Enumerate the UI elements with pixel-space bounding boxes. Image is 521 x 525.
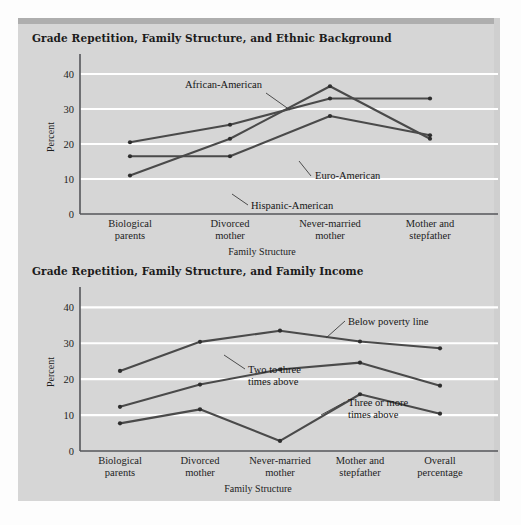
series-annotation-label: times above [248, 376, 299, 387]
y-tick-label: 10 [64, 410, 75, 421]
data-point [438, 384, 442, 388]
chart-plot-ethnic-background: 010203040PercentBiologicalparentsDivorce… [18, 48, 500, 258]
figure-page: Grade Repetition, Family Structure, and … [0, 0, 521, 525]
x-category-label: percentage [417, 467, 463, 478]
x-category-label: stepfather [339, 467, 381, 478]
data-point [428, 133, 432, 137]
data-point [198, 407, 202, 411]
series-annotation-label: Below poverty line [348, 316, 429, 327]
x-category-label: mother [215, 230, 245, 241]
data-point [128, 154, 132, 158]
x-category-label: Biological [98, 455, 142, 466]
x-category-label: Never-married [249, 455, 311, 466]
annotation-leader-line [232, 194, 248, 205]
y-axis-label: Percent [45, 122, 56, 152]
annotation-leader-line [326, 321, 345, 338]
x-category-label: Never-married [299, 218, 361, 229]
data-point [228, 154, 232, 158]
chart-plot-family-income: 010203040PercentBiologicalparentsDivorce… [18, 281, 500, 496]
series-annotation-label: Euro-American [315, 170, 381, 181]
data-point [278, 439, 282, 443]
x-category-label: mother [265, 467, 295, 478]
data-point [118, 405, 122, 409]
data-point [438, 346, 442, 350]
y-tick-label: 0 [69, 446, 74, 457]
data-point [128, 173, 132, 177]
x-category-label: Divorced [210, 218, 250, 229]
x-category-label: parents [115, 230, 145, 241]
series-annotation-label: Hispanic-American [251, 200, 334, 211]
data-point [198, 340, 202, 344]
y-tick-label: 20 [64, 374, 75, 385]
data-point [228, 123, 232, 127]
x-category-label: Overall [424, 455, 456, 466]
chart-title-family-income: Grade Repetition, Family Structure, and … [32, 265, 364, 277]
y-tick-label: 20 [64, 139, 75, 150]
data-point [118, 421, 122, 425]
x-axis-label: Family Structure [224, 483, 292, 494]
data-point [198, 382, 202, 386]
series-annotation-label: Three or more [348, 397, 408, 408]
data-point [328, 84, 332, 88]
x-category-label: parents [105, 467, 135, 478]
data-point [358, 392, 362, 396]
y-tick-label: 30 [64, 338, 75, 349]
data-point [128, 140, 132, 144]
annotation-leader-line [299, 161, 311, 176]
x-category-label: Mother and [406, 218, 455, 229]
data-point [428, 96, 432, 100]
data-point [328, 96, 332, 100]
annotation-leader-line [224, 355, 245, 369]
y-tick-label: 40 [64, 69, 75, 80]
data-point [438, 412, 442, 416]
data-point [278, 329, 282, 333]
annotation-leader-line [321, 402, 345, 415]
y-axis-label: Percent [45, 357, 56, 387]
series-annotation-label: Two to three [248, 364, 301, 375]
chart-title-ethnic-background: Grade Repetition, Family Structure, and … [32, 32, 392, 44]
data-point [328, 114, 332, 118]
data-point [358, 361, 362, 365]
x-category-label: mother [185, 467, 215, 478]
y-tick-label: 0 [69, 209, 74, 220]
y-tick-label: 40 [64, 302, 75, 313]
x-category-label: Mother and [336, 455, 385, 466]
series-annotation-label: times above [348, 409, 399, 420]
series-line [130, 86, 430, 175]
annotation-leader-line [266, 93, 290, 110]
x-category-label: mother [315, 230, 345, 241]
x-axis-label: Family Structure [228, 246, 296, 257]
data-point [358, 339, 362, 343]
data-point [118, 369, 122, 373]
y-tick-label: 10 [64, 174, 75, 185]
y-tick-label: 30 [64, 104, 75, 115]
chart-panel-family-income: Grade Repetition, Family Structure, and … [18, 258, 500, 498]
x-category-label: Biological [108, 218, 152, 229]
series-line [130, 116, 430, 156]
chart-panel-ethnic-background: Grade Repetition, Family Structure, and … [18, 24, 500, 259]
data-point [228, 137, 232, 141]
x-category-label: stepfather [409, 230, 451, 241]
x-category-label: Divorced [180, 455, 220, 466]
series-annotation-label: African-American [185, 79, 263, 90]
